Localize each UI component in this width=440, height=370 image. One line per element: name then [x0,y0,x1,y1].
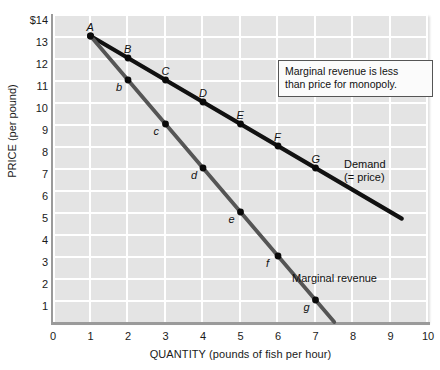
gridline-horizontal [53,124,428,126]
data-point-label: E [237,109,244,121]
gridline-horizontal [53,14,428,16]
y-tick-label: 2 [2,279,48,290]
annotation-callout: Marginal revenue is less than price for … [278,60,433,97]
data-point-label: F [274,131,281,143]
gridline-horizontal [53,234,428,236]
chart-figure: $14 13 12 11 10 9 8 7 6 5 4 3 2 1 0 1 2 … [0,0,440,370]
x-axis-title: QUANTITY (pounds of fish per hour) [53,348,428,360]
demand-label-line-1: Demand [344,158,386,171]
y-tick-label: 12 [2,59,48,70]
y-axis-title: PRICE (per pound) [6,71,18,191]
data-point-label: e [229,213,235,225]
y-axis [51,14,53,324]
data-point-label: G [312,153,321,165]
mr-label-line-1: Marginal revenue [292,272,377,285]
x-tick-label: 2 [116,330,140,342]
y-tick-label: 13 [2,37,48,48]
annotation-line-1: Marginal revenue is less [285,65,427,78]
data-point-label: g [304,301,310,313]
gridline-horizontal [53,212,428,214]
x-tick-label: 1 [79,330,103,342]
x-tick-label: 10 [416,330,440,342]
x-tick-label: 7 [304,330,328,342]
data-point-label: d [191,169,197,181]
y-tick-label: 4 [2,235,48,246]
y-tick-label: $14 [2,15,48,26]
gridline-horizontal [53,36,428,38]
x-axis [51,322,430,325]
y-tick-label: 1 [2,301,48,312]
x-tick-label: 4 [191,330,215,342]
gridline-horizontal [53,102,428,104]
demand-label-line-2: (= price) [344,171,386,184]
x-tick-label: 3 [154,330,178,342]
x-tick-label: 5 [229,330,253,342]
y-tick-label: 5 [2,213,48,224]
gridline-horizontal [53,256,428,258]
data-point-label: D [199,87,207,99]
data-point-label: b [116,81,122,93]
y-tick-label: 3 [2,257,48,268]
data-point-label: c [154,125,160,137]
data-point-label: A [87,21,94,33]
demand-series-label: Demand (= price) [344,158,386,184]
gridline-horizontal [53,146,428,148]
gridline-horizontal [53,300,428,302]
x-tick-label: 6 [266,330,290,342]
data-point-label: f [266,257,269,269]
x-tick-label: 9 [379,330,403,342]
marginal-revenue-series-label: Marginal revenue [292,272,377,285]
x-tick-label: 8 [341,330,365,342]
y-tick-label: 6 [2,191,48,202]
data-point-label: C [162,65,170,77]
data-point-label: B [124,43,131,55]
annotation-line-2: than price for monopoly. [285,78,427,91]
gridline-horizontal [53,190,428,192]
x-tick-label: 0 [41,330,65,342]
